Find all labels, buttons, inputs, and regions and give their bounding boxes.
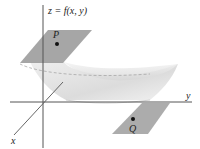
tangent-plane-q [112, 103, 170, 134]
point-q-label: Q [129, 123, 137, 134]
point-p-dot [55, 42, 59, 46]
surface [20, 62, 178, 103]
y-axis-label: y [185, 90, 191, 101]
x-axis-label: x [10, 135, 16, 146]
surface-diagram: z = f(x, y) P Q x y [0, 0, 200, 149]
point-p-label: P [52, 29, 59, 40]
equation-label: z = f(x, y) [47, 5, 88, 17]
x-axis [14, 82, 63, 135]
point-q-dot [131, 117, 135, 121]
